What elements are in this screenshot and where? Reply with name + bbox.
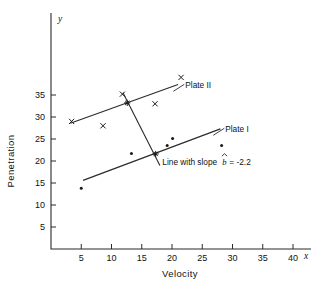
data-point-plate-1: [130, 152, 133, 155]
data-point-plate-1: [171, 137, 174, 140]
data-point-plate-2: [178, 75, 183, 80]
plate-2-label: Plate II: [185, 80, 211, 90]
data-point-plate-2: [100, 123, 105, 128]
y-axis-variable-label: y: [57, 14, 63, 24]
y-tick-label: 15: [35, 178, 45, 188]
slope-annotation-value: = -2.2: [229, 157, 251, 167]
axis-lines: [51, 13, 311, 249]
x-axis-variable-label: x: [303, 251, 309, 261]
y-tick-label: 25: [35, 134, 45, 144]
x-tick-label: 10: [106, 253, 116, 263]
x-tick-label: 35: [258, 253, 268, 263]
x-tick-label: 30: [227, 253, 237, 263]
x-axis-title: Velocity: [162, 268, 198, 279]
x-tick-label: 5: [79, 253, 84, 263]
x-tick-label: 15: [137, 253, 147, 263]
y-tick-label: 10: [35, 200, 45, 210]
y-tick-label: 35: [35, 90, 45, 100]
fitted-line: [70, 84, 178, 123]
x-tick-label: 20: [167, 253, 177, 263]
y-tick-label: 5: [40, 222, 45, 232]
line-intersection-marker: [124, 100, 130, 106]
y-tick-label: 30: [35, 112, 45, 122]
x-tick-label: 25: [197, 253, 207, 263]
data-point-plate-1: [80, 187, 83, 190]
scatter-plot: yx5101520253035405101520253035VelocityPe…: [0, 0, 322, 300]
line-intersection-marker: [153, 151, 159, 157]
chart-figure: yx5101520253035405101520253035VelocityPe…: [0, 0, 322, 300]
data-point-plate-2: [152, 101, 157, 106]
fitted-line: [83, 129, 220, 180]
plate-1-label: Plate I: [225, 124, 249, 134]
x-tick-label: 40: [288, 253, 298, 263]
y-tick-label: 20: [35, 156, 45, 166]
slope-annotation-symbol: b: [222, 157, 227, 167]
slope-annotation: Line with slopeb= -2.2: [162, 154, 251, 167]
slope-annotation-prefix: Line with slope: [162, 157, 217, 167]
data-point-plate-1: [166, 144, 169, 147]
data-point-plate-1: [220, 144, 223, 147]
y-axis-title: Penetration: [5, 135, 16, 188]
